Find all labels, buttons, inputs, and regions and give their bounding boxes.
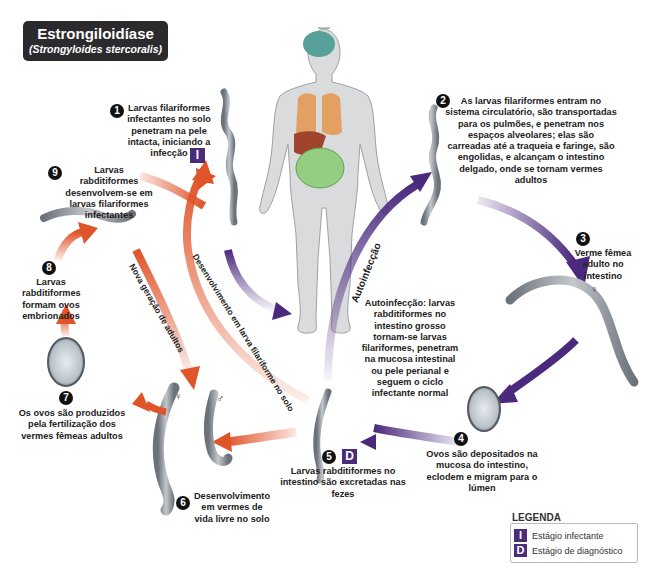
female-symbol: ♀: [590, 283, 598, 295]
infective-stage-badge: I: [514, 529, 527, 542]
diagram-title: Estrongiloidíase (Strongyloides stercora…: [23, 21, 168, 61]
step-3-text: Verme fêmea adulto no intestino: [568, 248, 638, 282]
legend-item-diagnostic: D Estágio de diagnóstico: [514, 544, 631, 557]
step-7-number: 7: [59, 391, 73, 405]
step-2-text: As larvas filariformes entram no sistema…: [445, 96, 617, 186]
egg-icon: [468, 387, 500, 431]
step-4-number: 4: [454, 432, 468, 446]
legend-item-infective: I Estágio infectante: [514, 529, 631, 542]
legend-item-label: Estágio infectante: [532, 531, 604, 541]
male-symbol: ♂: [216, 392, 224, 404]
step-5-number: 5: [322, 450, 336, 464]
diagnostic-stage-badge: D: [514, 544, 527, 557]
adult-female-free-living-worm-icon: [158, 388, 174, 510]
legend: LEGENDA I Estágio infectante D Estágio d…: [510, 512, 638, 563]
infective-stage-badge: I: [190, 148, 205, 163]
step-4-text: Ovos são depositados na mucosa do intest…: [422, 449, 542, 494]
step-3-number: 3: [576, 232, 590, 246]
egg-icon: [48, 338, 84, 386]
step-6-text: Desenvolvimento em vermes de vida livre …: [192, 491, 272, 525]
step-9-number: 9: [48, 166, 62, 180]
adult-male-free-living-worm-icon: [208, 394, 228, 461]
step-6-number: 6: [176, 496, 190, 510]
diagnostic-stage-badge: D: [342, 449, 357, 464]
legend-item-label: Estágio de diagnóstico: [532, 546, 623, 556]
step-8-number: 8: [42, 261, 56, 275]
adult-female-worm-icon: [510, 280, 634, 382]
step-9-text: Larvas rabditiformes desenvolvem-se em l…: [64, 165, 154, 221]
filariform-larva-icon: [424, 108, 438, 222]
female-symbol: ♀: [174, 390, 182, 402]
step-5-text: Larvas rabditiformes no intestino são ex…: [278, 466, 408, 500]
autoinfection-text: Autoinfecção: larvas rabditiformes no in…: [360, 298, 460, 400]
title-species: (Strongyloides stercoralis): [23, 43, 168, 56]
step-8-text: Larvas rabditiformes formam ovos embrion…: [22, 277, 80, 322]
title-main: Estrongiloidíase: [23, 25, 168, 43]
step-1-number: 1: [110, 104, 124, 118]
step-7-text: Os ovos são produzidos pela fertilização…: [16, 408, 128, 442]
human-figure: [260, 28, 389, 333]
legend-title: LEGENDA: [512, 512, 638, 523]
filariform-larva-icon: [224, 92, 234, 222]
